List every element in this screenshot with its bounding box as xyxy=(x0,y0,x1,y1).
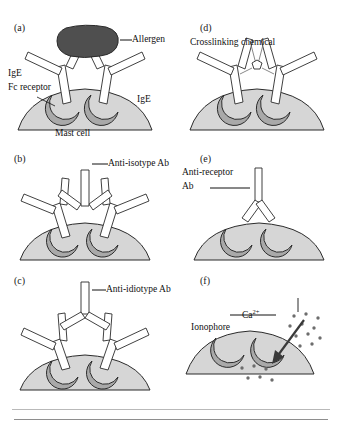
anti-receptor-label-line1: Anti-receptor xyxy=(182,167,233,178)
ige-left xyxy=(21,313,70,370)
ige-left xyxy=(21,178,70,238)
calcium-label: Ca2+ xyxy=(242,310,259,321)
ige-left-label: IgE xyxy=(8,68,22,79)
crosslink-bond-lower-left xyxy=(240,68,252,74)
crosslinking-chemical-label: Crosslinking chemical xyxy=(190,37,275,48)
panel-f: (f) Ca2+ Ionophore xyxy=(172,272,342,397)
panel-d-letter: (d) xyxy=(200,22,212,33)
figure-root: (a) Allergen xyxy=(0,0,342,428)
ige-right-label: IgE xyxy=(137,94,151,105)
ionophore-label: Ionophore xyxy=(191,322,230,333)
upper-rule xyxy=(12,409,330,410)
mast-cell-body xyxy=(20,355,150,390)
panel-c: (c) Anti- xyxy=(0,272,170,397)
anti-receptor-label-line2: Ab xyxy=(182,181,194,192)
anti-idiotype-antibody xyxy=(60,282,110,330)
panel-a: (a) Allergen xyxy=(0,18,170,143)
ige-right xyxy=(100,178,149,238)
anti-isotype-label: Anti-isotype Ab xyxy=(108,158,169,169)
panel-b-letter: (b) xyxy=(14,153,26,164)
mast-cell-body xyxy=(194,223,324,260)
mast-cell-body xyxy=(186,331,314,374)
crosslinking-chemical-shape xyxy=(252,60,262,69)
calcium-charge: 2+ xyxy=(253,308,260,315)
panel-f-letter: (f) xyxy=(200,275,210,286)
lower-rule xyxy=(14,419,328,420)
calcium-ions-outside xyxy=(288,312,321,347)
anti-receptor-antibody xyxy=(242,168,275,222)
panel-a-letter: (a) xyxy=(14,22,25,33)
allergen-shape xyxy=(57,25,118,57)
panel-e-letter: (e) xyxy=(200,153,211,164)
panel-e: (e) Anti-receptor Ab xyxy=(172,150,342,268)
fc-receptor-label: Fc receptor xyxy=(8,82,51,93)
panel-b: (b) Anti- xyxy=(0,150,170,268)
allergen-label: Allergen xyxy=(132,34,165,45)
anti-idiotype-label: Anti-idiotype Ab xyxy=(106,284,171,295)
mast-cell-label: Mast cell xyxy=(55,128,90,139)
ige-right xyxy=(100,313,149,370)
panel-c-letter: (c) xyxy=(14,275,25,286)
panel-f-illustration xyxy=(172,272,342,397)
crosslink-bond-lower-right xyxy=(262,68,274,74)
panel-d: (d) Crosslinking chemical xyxy=(172,18,342,143)
mast-cell-body xyxy=(20,223,150,260)
